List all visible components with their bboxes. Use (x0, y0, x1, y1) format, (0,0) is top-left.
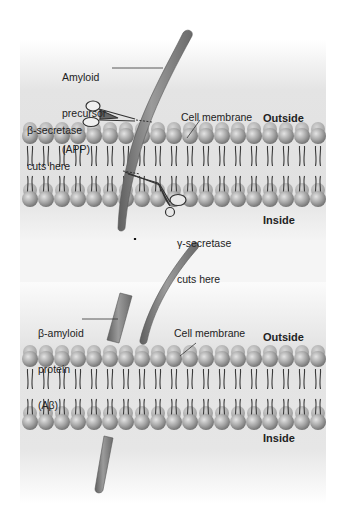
inside-label-bottom: Inside (263, 432, 295, 444)
beta-secretase-label: β-secretase cuts here (27, 100, 82, 184)
gamma-secretase-line2: cuts here (177, 273, 231, 285)
gamma-secretase-label: γ-secretase cuts here (177, 213, 231, 297)
beta-secretase-line1: β-secretase (27, 124, 82, 136)
outside-label-top: Outside (263, 112, 304, 124)
gamma-secretase-line1: γ-secretase (177, 237, 231, 249)
abeta-label-line1: β-amyloid (38, 327, 84, 339)
abeta-label-line3: (Aβ) (38, 399, 84, 411)
outside-label-bottom: Outside (263, 331, 304, 343)
beta-secretase-line2: cuts here (27, 160, 82, 172)
cell-membrane-label-top: Cell membrane (181, 111, 252, 123)
inside-label-top: Inside (263, 214, 295, 226)
abeta-label: β-amyloid protein (Aβ) (38, 303, 84, 423)
cell-membrane-label-bottom: Cell membrane (174, 327, 245, 339)
app-label-line1: Amyloid (62, 71, 106, 83)
abeta-label-line2: protein (38, 363, 84, 375)
